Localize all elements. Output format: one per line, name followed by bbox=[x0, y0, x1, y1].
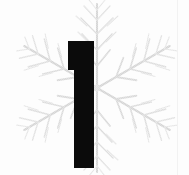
right-edge-scan-line bbox=[177, 0, 178, 175]
drop-cap-numeral-one bbox=[0, 0, 189, 175]
page-canvas: 1 faint dithered six-armed snowflake orn… bbox=[0, 0, 189, 175]
numeral-one-glyph-path bbox=[68, 41, 94, 168]
